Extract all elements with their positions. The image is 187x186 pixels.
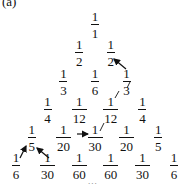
arrow-icon: [37, 148, 49, 158]
continuation-ellipsis: ...: [88, 176, 98, 186]
slash-mark-icon: [127, 82, 130, 88]
arrow-icon: [114, 59, 126, 69]
slash-mark-icon: [115, 91, 119, 98]
arrow-icon: [20, 146, 26, 158]
arrows-layer: [0, 0, 187, 186]
slash-mark-icon: [100, 123, 104, 131]
